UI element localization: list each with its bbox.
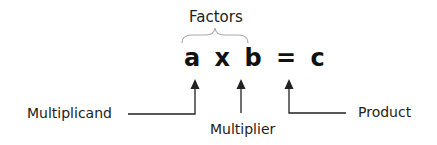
times-operator: x — [215, 44, 230, 72]
product-arrow — [285, 79, 347, 113]
multiplier-arrow — [237, 79, 246, 113]
multiplier-symbol: b — [244, 44, 261, 72]
factors-brace — [182, 28, 248, 43]
equals-sign: = — [276, 44, 296, 72]
multiplicand-symbol: a — [184, 44, 200, 72]
factors-label: Factors — [189, 8, 243, 26]
equation: a x b = c — [184, 44, 325, 72]
multiplier-label: Multiplier — [210, 121, 275, 137]
product-symbol: c — [310, 44, 324, 72]
multiplicand-label: Multiplicand — [27, 105, 112, 121]
product-label: Product — [358, 104, 411, 120]
multiplicand-arrow — [128, 79, 200, 114]
